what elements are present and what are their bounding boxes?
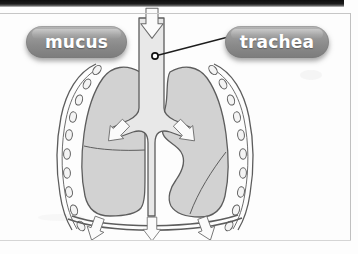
leader-dot-trachea xyxy=(152,53,158,59)
airflow-arrow-diaphragm-right xyxy=(194,215,219,243)
airflow-arrow-diaphragm-center xyxy=(143,217,161,241)
airflow-arrow-diaphragm-left xyxy=(83,215,108,243)
page-border-bottom xyxy=(0,240,351,241)
lung-left xyxy=(82,67,145,216)
leader-line-trachea xyxy=(155,36,232,56)
screenshot-root: mucus trachea xyxy=(0,0,358,254)
label-pill-mucus-text: mucus xyxy=(45,32,108,52)
label-pill-trachea-text: trachea xyxy=(240,32,315,52)
lung-right xyxy=(162,67,228,217)
page-border-top xyxy=(0,13,351,14)
page-border-right xyxy=(350,13,351,241)
scan-edge-band xyxy=(0,0,358,7)
label-pill-trachea[interactable]: trachea xyxy=(225,26,329,58)
label-pill-mucus[interactable]: mucus xyxy=(26,26,127,58)
scan-edge-band-gap xyxy=(344,0,358,7)
